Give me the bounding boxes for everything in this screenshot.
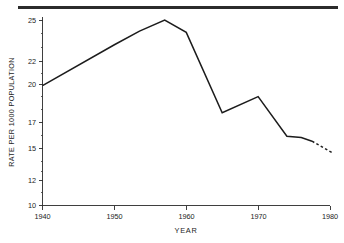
y-tick-label: 20 [28, 80, 36, 89]
data-series-solid [43, 20, 313, 141]
x-axis-tick-labels: 1940 1950 1960 1970 1980 [34, 212, 338, 221]
y-tick-label: 10 [28, 201, 36, 210]
y-tick-label: 15 [28, 144, 36, 153]
x-tick-label: 1950 [106, 212, 122, 221]
x-tick-label: 1960 [178, 212, 194, 221]
line-chart-svg: 25 22 20 17 15 12 10 1940 1950 1960 1970… [0, 0, 344, 243]
chart-figure: 25 22 20 17 15 12 10 1940 1950 1960 1970… [0, 0, 344, 243]
y-tick-label: 17 [28, 118, 36, 127]
x-axis-major-ticks [43, 206, 331, 210]
y-tick-label: 22 [28, 57, 36, 66]
x-tick-label: 1940 [34, 212, 50, 221]
y-tick-label: 12 [28, 176, 36, 185]
x-axis-title: YEAR [175, 226, 198, 235]
y-axis-title: RATE PER 1000 POPULATION [7, 57, 16, 167]
y-tick-label: 25 [28, 16, 36, 25]
x-tick-label: 1970 [250, 212, 266, 221]
x-tick-label: 1980 [322, 212, 338, 221]
y-axis-tick-labels: 25 22 20 17 15 12 10 [28, 16, 36, 211]
data-series-dashed [312, 141, 334, 153]
